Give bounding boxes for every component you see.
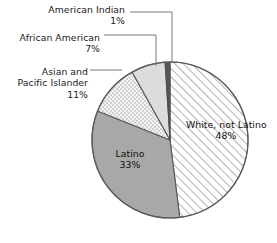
leader-line-african-american [104,35,156,66]
slice-label-asian-pacific-islander-percent: 11% [2,89,88,100]
slice-label-asian-pacific-islander-name-line1: Asian and [42,66,88,77]
pie-chart-figure: American Indian 1% African American 7% A… [0,0,277,243]
leader-line-american-indian [130,12,172,63]
slice-label-african-american-name: African American [20,32,100,43]
slice-label-white-not-latino-name: White, not Latino [186,119,267,130]
slice-label-latino-percent: 33% [106,159,154,170]
slice-label-asian-pacific-islander: Asian and Pacific Islander 11% [2,66,88,100]
slice-label-latino-name: Latino [116,148,145,159]
slice-label-american-indian: American Indian 1% [30,4,125,27]
slice-label-latino: Latino 33% [106,148,154,171]
slice-label-american-indian-percent: 1% [30,15,125,26]
slice-label-american-indian-name: American Indian [48,4,125,15]
slice-label-white-not-latino: White, not Latino 48% [186,119,266,142]
slice-label-asian-pacific-islander-name-line2: Pacific Islander [2,77,88,88]
slice-label-african-american: African American 7% [18,32,100,55]
slice-label-white-not-latino-percent: 48% [186,130,266,141]
slice-label-african-american-percent: 7% [18,43,100,54]
